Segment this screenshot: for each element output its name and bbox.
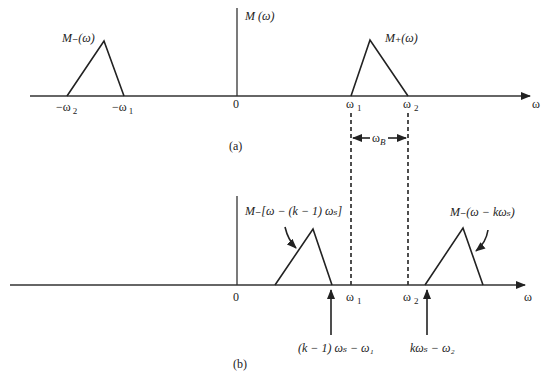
tick-w1-b: ω1 [346,290,361,306]
arrow-right-label: kωₛ − ω₂ [410,341,455,355]
shifted-left-triangle [275,229,332,285]
right-spectrum-label: M₊(ω) [384,31,418,45]
origin-label-a: 0 [233,97,239,111]
tick-neg-w2: −ω2 [56,100,77,116]
x-axis-label-a: ω [532,97,540,111]
tick-w2-b: ω2 [403,290,418,306]
shifted-left-label: M₋[ω − (k − 1) ωₛ] [244,204,343,218]
pointer-arrow-right [476,230,488,251]
left-spectrum-label: M₋(ω) [61,31,95,45]
caption-b: (b) [233,357,247,371]
x-axis-label-b: ω [524,290,532,304]
origin-label-b: 0 [233,290,239,304]
panel-b: 0 ω M₋[ω − (k − 1) ωₛ] M₋(ω − kωₛ) ω1 ω2… [10,196,532,371]
pointer-arrow-left [285,227,296,248]
right-spectrum-triangle [351,40,408,96]
bandwidth-label: ωB [372,131,386,147]
y-axis-label-a: M (ω) [244,9,274,23]
left-spectrum-triangle [67,41,124,96]
shifted-right-label: M₋(ω − kωₛ) [449,205,515,219]
caption-a: (a) [229,139,242,153]
arrow-left-label: (k − 1) ωₛ − ω₁ [298,341,374,355]
tick-w2-a: ω2 [403,97,418,113]
sampling-spectrum-diagram: M (ω) ω 0 M₋(ω) M₊(ω) −ω2 −ω1 ω1 ω2 ωB (… [0,0,546,375]
panel-a: M (ω) ω 0 M₋(ω) M₊(ω) −ω2 −ω1 ω1 ω2 ωB (… [30,8,540,286]
tick-w1-a: ω1 [346,97,361,113]
tick-neg-w1: −ω1 [112,100,133,116]
shifted-right-triangle [425,228,483,285]
